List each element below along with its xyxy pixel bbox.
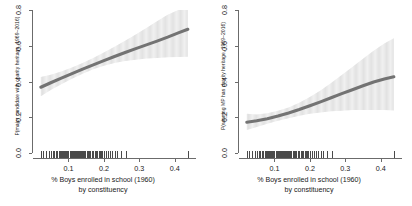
- rug-mark: [247, 151, 248, 158]
- rug-mark: [323, 151, 324, 158]
- rug-plot-left: [33, 150, 196, 158]
- x-tick-mark: [68, 159, 69, 162]
- x-tick-mark: [139, 159, 140, 162]
- y-tick-label: 0.0: [215, 148, 233, 158]
- rug-plot-right: [239, 150, 402, 158]
- rug-mark: [110, 151, 111, 158]
- two-panel-figure: P(major candidate with charity heritage,…: [0, 0, 412, 206]
- y-tick-label: 0.8: [9, 5, 27, 15]
- y-tick-label-text: 0.8: [220, 5, 229, 15]
- plot-canvas-right: [239, 10, 402, 153]
- y-tick-mark: [29, 117, 32, 118]
- panel-left: P(major candidate with charity heritage,…: [0, 0, 206, 206]
- rug-mark: [41, 151, 42, 158]
- y-tick-label-text: 0.4: [14, 77, 23, 87]
- x-tick-mark: [310, 159, 311, 162]
- x-tick-mark: [274, 159, 275, 162]
- rug-mark: [249, 151, 250, 158]
- panel-right: P(winning MP has charity heritage, 1969–…: [206, 0, 412, 206]
- y-tick-label: 0.4: [215, 77, 233, 87]
- y-tick-mark: [235, 82, 238, 83]
- rug-mark: [318, 151, 319, 158]
- rug-mark: [307, 151, 308, 158]
- rug-mark: [121, 151, 122, 158]
- x-tick-mark: [104, 159, 105, 162]
- rug-mark: [49, 151, 50, 158]
- rug-mark: [188, 151, 189, 158]
- y-tick-label: 0.4: [9, 77, 27, 87]
- y-tick-label: 0.2: [215, 112, 233, 122]
- x-tick-label: 0.3: [134, 164, 144, 173]
- y-tick-label-text: 0.2: [220, 112, 229, 122]
- y-tick-label-text: 0.6: [14, 41, 23, 51]
- y-tick-label-text: 0.4: [220, 77, 229, 87]
- y-tick-mark: [29, 10, 32, 11]
- x-tick-label: 0.1: [269, 164, 279, 173]
- x-tick-label: 0.2: [99, 164, 109, 173]
- y-tick-mark: [29, 82, 32, 83]
- y-tick-mark: [235, 153, 238, 154]
- rug-mark: [394, 151, 395, 158]
- rug-mark: [255, 151, 256, 158]
- x-tick-mark: [345, 159, 346, 162]
- x-axis-title-right-line1: % Boys enrolled in school (1960): [206, 176, 412, 186]
- y-tick-label: 0.8: [215, 5, 233, 15]
- rug-mark: [112, 151, 113, 158]
- x-tick-label: 0.4: [170, 164, 180, 173]
- y-tick-mark: [235, 46, 238, 47]
- y-tick-mark: [29, 46, 32, 47]
- y-tick-mark: [29, 153, 32, 154]
- x-axis-title-left: % Boys enrolled in school (1960) by cons…: [0, 176, 206, 195]
- x-tick-label: 0.4: [376, 164, 386, 173]
- x-axis-title-right: % Boys enrolled in school (1960) by cons…: [206, 176, 412, 195]
- x-axis-title-left-line2: by constituency: [0, 186, 206, 196]
- x-tick-label: 0.2: [305, 164, 315, 173]
- rug-mark: [43, 151, 44, 158]
- rug-mark: [310, 151, 311, 158]
- plot-svg-right: [239, 10, 402, 153]
- y-tick-label-text: 0.0: [220, 148, 229, 158]
- rug-mark: [126, 151, 127, 158]
- y-tick-label-text: 0.8: [14, 5, 23, 15]
- y-tick-mark: [235, 10, 238, 11]
- rug-mark: [46, 151, 47, 158]
- y-tick-label-text: 0.0: [14, 148, 23, 158]
- rug-mark: [117, 151, 118, 158]
- plot-canvas-left: [33, 10, 196, 153]
- x-axis-title-left-line1: % Boys enrolled in school (1960): [0, 176, 206, 186]
- y-tick-label: 0.0: [9, 148, 27, 158]
- rug-mark: [102, 151, 103, 158]
- x-tick-mark: [175, 159, 176, 162]
- x-axis-line-left: [33, 158, 196, 159]
- x-tick-label: 0.1: [63, 164, 73, 173]
- rug-mark: [316, 151, 317, 158]
- x-tick-label: 0.3: [340, 164, 350, 173]
- y-tick-label-text: 0.6: [220, 41, 229, 51]
- x-axis-title-right-line2: by constituency: [206, 186, 412, 196]
- plot-svg-left: [33, 10, 196, 153]
- x-tick-mark: [381, 159, 382, 162]
- rug-mark: [252, 151, 253, 158]
- rug-mark: [115, 151, 116, 158]
- rug-mark: [108, 151, 109, 158]
- rug-mark: [106, 151, 107, 158]
- rug-mark: [54, 151, 55, 158]
- rug-mark: [104, 151, 105, 158]
- y-tick-label: 0.6: [9, 41, 27, 51]
- y-tick-label-text: 0.2: [14, 112, 23, 122]
- rug-mark: [332, 151, 333, 158]
- rug-mark: [101, 151, 102, 158]
- rug-mark: [312, 151, 313, 158]
- x-axis-line-right: [239, 158, 402, 159]
- rug-mark: [260, 151, 261, 158]
- y-tick-label: 0.6: [215, 41, 233, 51]
- rug-mark: [308, 151, 309, 158]
- confidence-band-hatch-left: [41, 10, 188, 96]
- y-tick-label: 0.2: [9, 112, 27, 122]
- rug-mark: [327, 151, 328, 158]
- y-tick-mark: [235, 117, 238, 118]
- rug-mark: [314, 151, 315, 158]
- rug-mark: [321, 151, 322, 158]
